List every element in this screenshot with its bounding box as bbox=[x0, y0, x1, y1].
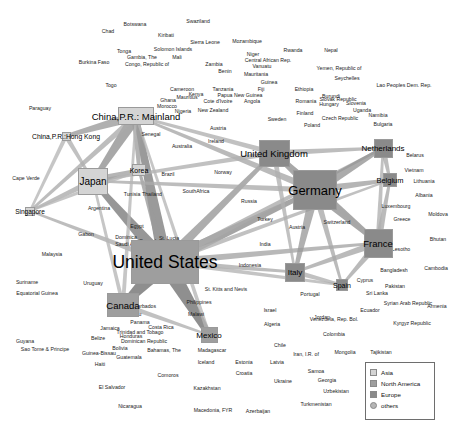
leaf-country-label[interactable]: Equatorial Guinea bbox=[16, 290, 58, 296]
leaf-country-label[interactable]: Norway bbox=[214, 169, 232, 175]
leaf-country-label[interactable]: Mozambique bbox=[232, 38, 262, 44]
leaf-country-label[interactable]: Cape Verde bbox=[12, 175, 39, 181]
leaf-country-label[interactable]: Egypt bbox=[130, 223, 143, 229]
leaf-country-label[interactable]: Cyprus bbox=[357, 277, 373, 283]
leaf-country-label[interactable]: Nepal bbox=[324, 47, 338, 53]
leaf-country-label[interactable]: Swaziland bbox=[186, 18, 210, 24]
legend-item[interactable]: others bbox=[370, 400, 430, 410]
leaf-country-label[interactable]: Yemen, Republic of bbox=[317, 65, 362, 71]
leaf-country-label[interactable]: Zambia bbox=[205, 61, 222, 67]
leaf-country-label[interactable]: Kazakhstan bbox=[193, 385, 220, 391]
leaf-country-label[interactable]: Czech Republic bbox=[322, 115, 358, 121]
leaf-country-label[interactable]: St. Kitts and Nevis bbox=[205, 286, 247, 292]
leaf-country-label[interactable]: Croatia bbox=[236, 370, 253, 376]
legend-item[interactable]: North America bbox=[370, 378, 430, 388]
leaf-country-label[interactable]: Finland bbox=[296, 110, 313, 116]
leaf-country-label[interactable]: Estonia bbox=[235, 359, 252, 365]
leaf-country-label[interactable]: Nicaragua bbox=[118, 403, 142, 409]
leaf-country-label[interactable]: Moldova bbox=[428, 211, 448, 217]
leaf-country-label[interactable]: Botswana bbox=[124, 21, 147, 27]
leaf-country-label[interactable]: Senegal bbox=[141, 131, 160, 137]
leaf-country-label[interactable]: Samoa bbox=[308, 368, 324, 374]
leaf-country-label[interactable]: Ukraine bbox=[274, 378, 292, 384]
leaf-country-label[interactable]: Macedonia, FYR bbox=[194, 407, 233, 413]
legend-item[interactable]: Asia bbox=[370, 367, 430, 377]
leaf-country-label[interactable]: Russia bbox=[241, 198, 257, 204]
leaf-country-label[interactable]: Bangladesh bbox=[380, 267, 407, 273]
leaf-country-label[interactable]: Colombia bbox=[323, 331, 345, 337]
leaf-country-label[interactable]: Comoros bbox=[157, 372, 178, 378]
leaf-country-label[interactable]: Kiribati bbox=[158, 32, 174, 38]
leaf-country-label[interactable]: Ethiopia bbox=[295, 86, 314, 92]
leaf-country-label[interactable]: Malawi bbox=[188, 311, 204, 317]
legend-item[interactable]: Europe bbox=[370, 389, 430, 399]
leaf-country-label[interactable]: Sao Tome & Principe bbox=[21, 346, 69, 352]
leaf-country-label[interactable]: Angola bbox=[244, 98, 260, 104]
leaf-country-label[interactable]: Lesotho bbox=[392, 246, 410, 252]
leaf-country-label[interactable]: Iceland bbox=[198, 359, 215, 365]
leaf-country-label[interactable]: Greece bbox=[393, 216, 410, 222]
leaf-country-label[interactable]: Belize bbox=[91, 335, 105, 341]
leaf-country-label[interactable]: Philippines bbox=[186, 299, 211, 305]
leaf-country-label[interactable]: Gambia, The bbox=[127, 54, 157, 60]
leaf-country-label[interactable]: Mongolia bbox=[334, 349, 355, 355]
leaf-country-label[interactable]: Guinea bbox=[261, 79, 278, 85]
leaf-country-label[interactable]: El Salvador bbox=[99, 384, 126, 390]
leaf-country-label[interactable]: Lithuania bbox=[413, 178, 434, 184]
leaf-country-label[interactable]: SouthAfrica bbox=[183, 188, 210, 194]
leaf-country-label[interactable]: Israel bbox=[264, 307, 277, 313]
leaf-country-label[interactable]: Romania bbox=[296, 98, 317, 104]
leaf-country-label[interactable]: Guinea-Bissau bbox=[82, 350, 116, 356]
leaf-country-label[interactable]: Switzerland bbox=[324, 219, 351, 225]
leaf-country-label[interactable]: Chile bbox=[274, 342, 286, 348]
leaf-country-label[interactable]: Brazil bbox=[162, 171, 175, 177]
leaf-country-label[interactable]: Panama bbox=[130, 319, 149, 325]
leaf-country-label[interactable]: Austria bbox=[210, 125, 226, 131]
leaf-country-label[interactable]: Thailand bbox=[142, 191, 162, 197]
leaf-country-label[interactable]: Cote d'Ivoire bbox=[204, 98, 233, 104]
leaf-country-label[interactable]: Luxembourg bbox=[382, 203, 411, 209]
leaf-country-label[interactable]: Tajikistan bbox=[370, 349, 391, 355]
leaf-country-label[interactable]: Burkina Faso bbox=[79, 59, 110, 65]
leaf-country-label[interactable]: Jordan bbox=[314, 314, 330, 320]
leaf-country-label[interactable]: Dominican Republic bbox=[121, 338, 167, 344]
leaf-country-label[interactable]: Guyana bbox=[16, 338, 34, 344]
leaf-country-label[interactable]: Paraguay bbox=[29, 105, 51, 111]
leaf-country-label[interactable]: Tunisia bbox=[124, 191, 141, 197]
leaf-country-label[interactable]: Belarus bbox=[406, 152, 424, 158]
leaf-country-label[interactable]: Ireland bbox=[208, 138, 224, 144]
leaf-country-label[interactable]: Turkmenistan bbox=[300, 401, 331, 407]
leaf-country-label[interactable]: Namibia bbox=[368, 112, 387, 118]
leaf-country-label[interactable]: Uzbekistan bbox=[323, 388, 349, 394]
leaf-country-label[interactable]: Uruguay bbox=[83, 280, 103, 286]
leaf-country-label[interactable]: Sweden bbox=[268, 116, 287, 122]
leaf-country-label[interactable]: Suriname bbox=[16, 279, 38, 285]
leaf-country-label[interactable]: Indonesia bbox=[239, 262, 262, 268]
leaf-country-label[interactable]: Togo bbox=[105, 82, 116, 88]
leaf-country-label[interactable]: Bahamas, The bbox=[147, 347, 181, 353]
leaf-country-label[interactable]: Sierra Leone bbox=[190, 39, 220, 45]
leaf-country-label[interactable]: Azerbaijan bbox=[246, 408, 271, 414]
leaf-country-label[interactable]: Armenia bbox=[427, 303, 446, 309]
leaf-country-label[interactable]: Benin bbox=[218, 68, 231, 74]
leaf-country-label[interactable]: Sri Lanka bbox=[366, 290, 388, 296]
leaf-country-label[interactable]: Argentina bbox=[88, 205, 110, 211]
leaf-country-label[interactable]: Bulgaria bbox=[373, 121, 392, 127]
leaf-country-label[interactable]: Latvia bbox=[270, 359, 284, 365]
leaf-country-label[interactable]: Austria bbox=[289, 224, 305, 230]
leaf-country-label[interactable]: Vanuatu bbox=[253, 63, 272, 69]
leaf-country-label[interactable]: Australia bbox=[172, 143, 192, 149]
leaf-country-label[interactable]: Slovenia bbox=[346, 100, 366, 106]
leaf-country-label[interactable]: Bhutan bbox=[430, 236, 446, 242]
leaf-country-label[interactable]: Solomon Islands bbox=[154, 46, 192, 52]
leaf-country-label[interactable]: Ecuador bbox=[360, 307, 379, 313]
leaf-country-label[interactable]: Cambodia bbox=[424, 265, 448, 271]
leaf-country-label[interactable]: Mauritius bbox=[176, 94, 197, 100]
leaf-country-label[interactable]: Vietnam bbox=[405, 167, 424, 173]
leaf-country-label[interactable]: Guatemala bbox=[116, 354, 141, 360]
leaf-country-label[interactable]: Poland bbox=[304, 122, 320, 128]
leaf-country-label[interactable]: Chad bbox=[102, 28, 114, 34]
leaf-country-label[interactable]: Mauritania bbox=[244, 71, 268, 77]
leaf-country-label[interactable]: Rwanda bbox=[283, 47, 302, 53]
leaf-country-label[interactable]: Albania bbox=[415, 192, 432, 198]
